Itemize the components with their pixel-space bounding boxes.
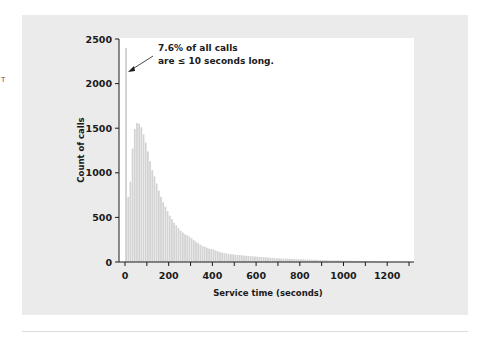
- histogram-bar: [210, 249, 212, 262]
- histogram-bar: [186, 235, 188, 262]
- annotation-arrow-icon: [128, 56, 153, 72]
- x-tick-label: 600: [246, 270, 266, 281]
- histogram-bar: [274, 258, 276, 262]
- axes: [115, 39, 414, 266]
- histogram-bar: [250, 256, 252, 262]
- histogram-bar: [263, 257, 265, 262]
- histogram-bar: [162, 202, 164, 262]
- histogram-bar: [230, 254, 232, 262]
- histogram-bar: [160, 197, 162, 262]
- histogram-bar: [267, 258, 269, 262]
- histogram-bar: [269, 258, 271, 262]
- histogram-bar: [199, 245, 201, 262]
- histogram-bar: [147, 151, 149, 262]
- y-tick-label: 0: [105, 257, 112, 268]
- histogram-bar: [130, 182, 132, 262]
- histogram-bar: [156, 184, 158, 262]
- y-tick-label: 2000: [86, 78, 113, 89]
- histogram-bar: [164, 207, 166, 262]
- x-tick-label: 400: [202, 270, 222, 281]
- histogram-bar: [125, 48, 127, 262]
- histogram-bar: [182, 233, 184, 262]
- y-tick-label: 1500: [86, 123, 113, 134]
- histogram-bar: [132, 149, 134, 262]
- histogram-bar: [234, 255, 236, 262]
- histogram-bar: [173, 223, 175, 262]
- histogram-bar: [256, 257, 258, 262]
- histogram-bar: [140, 127, 142, 262]
- histogram-bar: [241, 255, 243, 262]
- y-axis-title: Count of calls: [76, 117, 86, 182]
- histogram-bar: [282, 259, 284, 262]
- histogram-bar: [151, 170, 153, 262]
- histogram-bar: [226, 254, 228, 262]
- histogram-bar: [180, 231, 182, 262]
- annotation-line-2: are ≤ 10 seconds long.: [158, 56, 274, 66]
- histogram-bar: [243, 256, 245, 262]
- histogram-bar: [208, 249, 210, 262]
- histogram-bar: [223, 253, 225, 262]
- histogram-bar: [189, 237, 191, 262]
- histogram-bar: [171, 219, 173, 262]
- histogram-bar: [285, 259, 287, 262]
- histogram-bar: [169, 216, 171, 262]
- histogram-bar: [206, 248, 208, 262]
- histogram-bar: [127, 197, 129, 262]
- histogram-bar: [276, 258, 278, 262]
- histogram-bar: [252, 256, 254, 262]
- histogram-bar: [237, 255, 239, 262]
- histogram-bar: [154, 176, 156, 262]
- histogram-bar: [213, 250, 215, 262]
- histogram-bar: [138, 124, 140, 262]
- x-tick-label: 1000: [330, 270, 357, 281]
- histogram-bar: [145, 142, 147, 262]
- x-axis-title: Service time (seconds): [213, 288, 323, 298]
- x-tick-label: 800: [290, 270, 310, 281]
- histogram-bar: [261, 257, 263, 262]
- histogram-bar: [136, 123, 138, 262]
- histogram-bar: [221, 253, 223, 262]
- histogram-bar: [175, 225, 177, 262]
- histogram-bar: [158, 191, 160, 262]
- histogram-bar: [197, 243, 199, 262]
- histogram-bar: [280, 258, 282, 262]
- histogram-bar: [228, 254, 230, 262]
- histogram-bar: [195, 242, 197, 262]
- histogram-bar: [193, 240, 195, 262]
- histogram-bar: [143, 134, 145, 262]
- histogram-bar: [167, 211, 169, 262]
- histogram-bars: [125, 48, 409, 262]
- histogram-bar: [217, 251, 219, 262]
- y-tick-label: 2500: [86, 34, 113, 45]
- histogram-bar: [278, 258, 280, 262]
- histogram-bar: [178, 228, 180, 262]
- histogram-bar: [204, 247, 206, 262]
- x-tick-label: 0: [122, 270, 129, 281]
- histogram-bar: [258, 257, 260, 262]
- histogram-bar: [202, 246, 204, 262]
- histogram-bar: [248, 256, 250, 262]
- histogram-bar: [232, 254, 234, 262]
- histogram-bar: [219, 252, 221, 262]
- histogram-bar: [215, 250, 217, 262]
- y-tick-label: 500: [92, 212, 112, 223]
- histogram-bar: [239, 255, 241, 262]
- histogram-bar: [134, 129, 136, 262]
- histogram-bar: [254, 256, 256, 262]
- x-tick-label: 200: [159, 270, 179, 281]
- histogram-bar: [191, 238, 193, 262]
- histogram-bar: [245, 256, 247, 262]
- histogram-bar: [184, 234, 186, 262]
- annotation-line-1: 7.6% of all calls: [158, 43, 238, 53]
- y-tick-label: 1000: [86, 167, 113, 178]
- histogram-chart: 0500100015002000250002004006008001000120…: [0, 0, 484, 338]
- x-tick-label: 1200: [374, 270, 401, 281]
- histogram-bar: [272, 258, 274, 262]
- histogram-bar: [149, 161, 151, 262]
- histogram-bar: [265, 257, 267, 262]
